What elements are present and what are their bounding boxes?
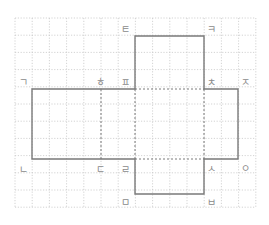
label-kieuk: ㅋ [207,24,216,35]
label-pieup: ㅍ [121,77,130,88]
label-giyeok: ㄱ [19,77,28,88]
label-ieung: ㅇ [241,163,250,174]
label-chieut: ㅊ [207,77,216,88]
label-siot: ㅅ [207,163,216,174]
label-tieut: ㅌ [121,24,130,35]
label-bieup: ㅂ [207,197,216,208]
box-net-diagram: ㄱ ㄴ ㄷ ㄹ ㅁ ㅂ ㅅ ㅇ ㅈ ㅊ ㅋ ㅌ ㅍ ㅎ [0,0,269,225]
label-nieun: ㄴ [19,164,28,175]
label-digeut: ㄷ [96,164,105,175]
label-jieut: ㅈ [241,77,250,88]
label-hieut: ㅎ [96,77,105,88]
label-mieum: ㅁ [121,197,130,208]
label-rieul: ㄹ [121,164,130,175]
